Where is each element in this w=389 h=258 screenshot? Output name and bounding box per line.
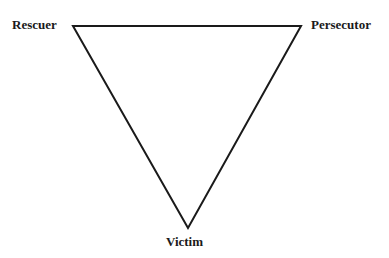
- triangle-diagram: [0, 0, 389, 258]
- rescuer-label: Rescuer: [12, 18, 57, 31]
- victim-label: Victim: [166, 235, 203, 248]
- persecutor-label: Persecutor: [311, 18, 371, 31]
- drama-triangle-shape: [73, 26, 301, 228]
